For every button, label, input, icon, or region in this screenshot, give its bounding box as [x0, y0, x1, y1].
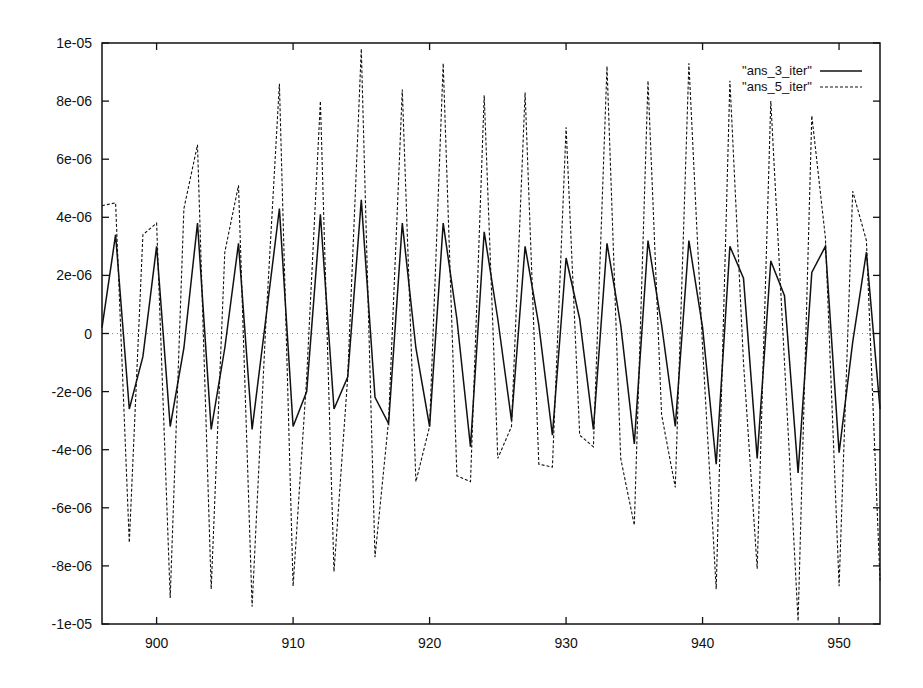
legend-label-ans-3-iter: "ans_3_iter" — [742, 63, 812, 78]
x-tick-label: 940 — [691, 635, 715, 651]
y-tick-label: -8e-06 — [52, 558, 93, 574]
x-tick-label: 900 — [145, 635, 169, 651]
x-tick-label: 950 — [827, 635, 851, 651]
series-ans-5-iter — [102, 49, 880, 621]
y-tick-label: 6e-06 — [56, 151, 92, 167]
series-lines — [102, 49, 880, 621]
y-tick-label: 2e-06 — [56, 267, 92, 283]
y-tick-label: 1e-05 — [56, 35, 92, 51]
plot-border — [102, 43, 880, 624]
x-tick-label: 910 — [281, 635, 305, 651]
y-tick-label: -6e-06 — [52, 500, 93, 516]
legend: "ans_3_iter" "ans_5_iter" — [742, 63, 862, 94]
series-ans-3-iter — [102, 200, 880, 473]
y-tick-label: -2e-06 — [52, 384, 93, 400]
y-tick-label: -1e-05 — [52, 616, 93, 632]
y-tick-label: 4e-06 — [56, 209, 92, 225]
x-tick-label: 920 — [418, 635, 442, 651]
legend-label-ans-5-iter: "ans_5_iter" — [742, 79, 812, 94]
line-chart: 1e-058e-066e-064e-062e-060-2e-06-4e-06-6… — [0, 0, 923, 688]
y-tick-label: -4e-06 — [52, 442, 93, 458]
x-tick-label: 930 — [554, 635, 578, 651]
y-tick-label: 8e-06 — [56, 93, 92, 109]
y-tick-label: 0 — [84, 326, 92, 342]
y-axis: 1e-058e-066e-064e-062e-060-2e-06-4e-06-6… — [52, 35, 880, 632]
plot-frame — [102, 43, 880, 624]
